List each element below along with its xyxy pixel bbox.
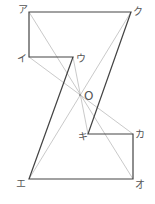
- label-ki: キ: [78, 131, 88, 142]
- label-i: イ: [17, 53, 27, 64]
- label-o: オ: [135, 179, 145, 190]
- guide-lines: [29, 12, 133, 179]
- label-a: ア: [18, 4, 28, 15]
- label-o-center: O: [84, 89, 93, 103]
- center-point-o: [79, 94, 81, 96]
- geometry-figure: ア ク イ ウ O キ カ エ オ: [0, 0, 155, 204]
- line-i-ka: [29, 57, 133, 134]
- label-e: エ: [16, 178, 26, 189]
- label-ka: カ: [135, 129, 145, 140]
- label-ku: ク: [133, 6, 143, 17]
- label-u: ウ: [76, 53, 86, 64]
